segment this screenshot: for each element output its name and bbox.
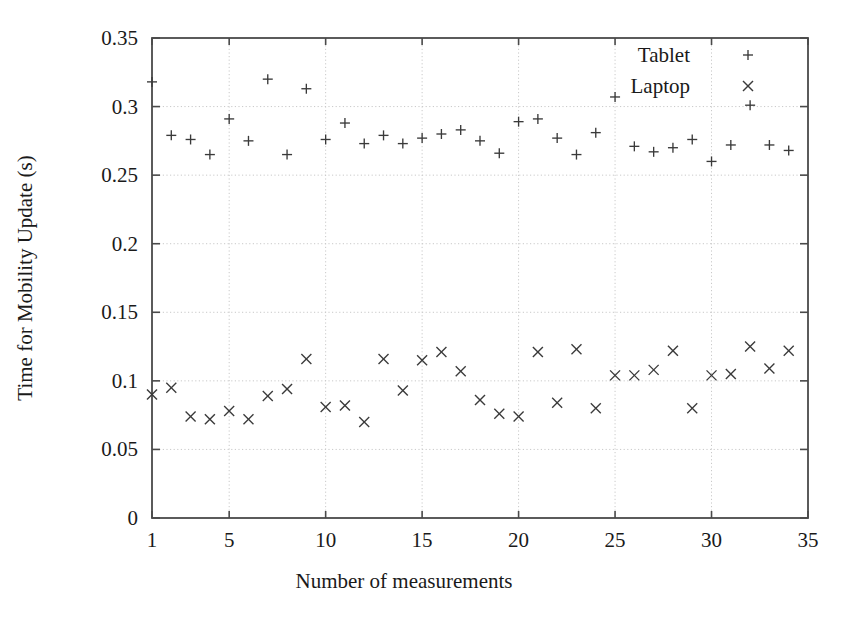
plus-marker: [456, 125, 466, 135]
cross-marker: [629, 370, 639, 380]
cross-marker: [321, 402, 331, 412]
plus-marker: [726, 140, 736, 150]
cross-marker: [456, 366, 466, 376]
plot-frame: [152, 38, 808, 518]
legend-label-tablet: Tablet: [638, 43, 690, 67]
cross-marker: [186, 412, 196, 422]
plus-marker: [379, 130, 389, 140]
legend-label-laptop: Laptop: [631, 74, 690, 98]
y-tick-label: 0.35: [101, 26, 138, 50]
cross-marker: [475, 395, 485, 405]
y-axis-label: Time for Mobility Update (s): [13, 155, 37, 400]
plus-marker: [301, 84, 311, 94]
plus-marker: [610, 92, 620, 102]
cross-marker: [398, 385, 408, 395]
plus-marker: [745, 100, 755, 110]
x-tick-label: 20: [508, 528, 529, 552]
cross-marker: [166, 383, 176, 393]
legend-marker-laptop: [743, 81, 753, 91]
plus-marker: [494, 148, 504, 158]
y-tick-label: 0.1: [112, 369, 138, 393]
cross-marker: [263, 391, 273, 401]
cross-marker: [359, 417, 369, 427]
x-tick-label: 35: [798, 528, 819, 552]
plus-marker: [475, 136, 485, 146]
cross-marker: [379, 354, 389, 364]
y-tick-label: 0: [128, 506, 139, 530]
plus-marker: [243, 136, 253, 146]
plus-marker: [784, 145, 794, 155]
cross-marker: [282, 384, 292, 394]
cross-marker: [591, 403, 601, 413]
plus-marker: [649, 147, 659, 157]
x-tick-label: 15: [412, 528, 433, 552]
plus-marker: [707, 156, 717, 166]
x-tick-label: 10: [315, 528, 336, 552]
cross-marker: [764, 364, 774, 374]
plus-marker: [359, 139, 369, 149]
cross-marker: [494, 409, 504, 419]
plus-marker: [205, 150, 215, 160]
plus-marker: [282, 150, 292, 160]
cross-marker: [745, 342, 755, 352]
y-tick-label: 0.15: [101, 300, 138, 324]
plus-marker: [514, 117, 524, 127]
x-tick-label: 5: [224, 528, 235, 552]
x-tick-label: 30: [701, 528, 722, 552]
y-tick-label: 0.25: [101, 163, 138, 187]
plus-marker: [571, 150, 581, 160]
plus-marker: [552, 133, 562, 143]
tick-marks: [152, 38, 808, 518]
plus-marker: [629, 141, 639, 151]
cross-marker: [707, 370, 717, 380]
cross-marker: [436, 347, 446, 357]
plus-marker: [340, 118, 350, 128]
data-series-layer: [147, 74, 794, 427]
plus-marker: [591, 128, 601, 138]
cross-marker: [610, 370, 620, 380]
plus-marker: [764, 140, 774, 150]
chart-figure: 15101520253035 00.050.10.150.20.250.30.3…: [0, 0, 852, 618]
x-tick-label: 25: [605, 528, 626, 552]
cross-marker: [552, 398, 562, 408]
cross-marker: [533, 347, 543, 357]
plus-marker: [668, 143, 678, 153]
cross-marker: [205, 414, 215, 424]
legend-marker-tablet: [743, 50, 753, 60]
cross-marker: [784, 346, 794, 356]
gridlines: [152, 38, 808, 518]
series-laptop: [147, 342, 794, 427]
cross-marker: [571, 344, 581, 354]
x-axis-tick-labels: 15101520253035: [147, 528, 819, 552]
x-tick-label: 1: [147, 528, 158, 552]
plus-marker: [321, 134, 331, 144]
plus-marker: [417, 133, 427, 143]
cross-marker: [417, 355, 427, 365]
cross-marker: [687, 403, 697, 413]
series-tablet: [147, 74, 794, 166]
y-tick-label: 0.05: [101, 437, 138, 461]
plus-marker: [166, 130, 176, 140]
plus-marker: [186, 134, 196, 144]
x-axis-label: Number of measurements: [296, 569, 513, 593]
cross-marker: [243, 414, 253, 424]
plus-marker: [436, 129, 446, 139]
cross-marker: [301, 354, 311, 364]
cross-marker: [649, 365, 659, 375]
legend: TabletLaptop: [631, 43, 753, 98]
cross-marker: [340, 401, 350, 411]
y-tick-label: 0.3: [112, 95, 138, 119]
cross-marker: [224, 406, 234, 416]
plus-marker: [147, 77, 157, 87]
cross-marker: [668, 346, 678, 356]
plus-marker: [263, 74, 273, 84]
plus-marker: [224, 114, 234, 124]
y-tick-label: 0.2: [112, 232, 138, 256]
plus-marker: [687, 134, 697, 144]
plus-marker: [533, 114, 543, 124]
cross-marker: [726, 369, 736, 379]
scatter-plot: 15101520253035 00.050.10.150.20.250.30.3…: [0, 0, 852, 618]
plus-marker: [398, 139, 408, 149]
y-axis-tick-labels: 00.050.10.150.20.250.30.35: [101, 26, 138, 530]
